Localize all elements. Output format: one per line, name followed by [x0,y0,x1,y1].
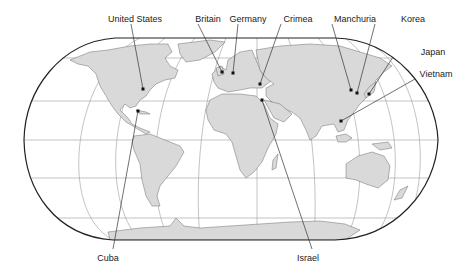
marker-britain [221,71,224,74]
south-america [132,134,184,206]
marker-united-states [142,88,145,91]
madagascar [272,154,278,170]
africa [206,94,278,178]
label-crimea: Crimea [283,14,312,24]
label-vietnam: Vietnam [420,69,453,79]
indonesia [336,134,352,142]
greenland [178,40,225,62]
north-america [70,44,178,134]
marker-japan [368,93,371,96]
marker-germany [232,72,235,75]
label-germany: Germany [229,14,266,24]
australia [346,152,390,188]
label-united-states: United States [108,14,162,24]
marker-crimea [259,83,262,86]
antarctica [108,218,360,240]
marker-israel [261,99,264,102]
label-israel: Israel [297,253,319,263]
map-canvas [0,0,461,276]
label-korea: Korea [401,14,425,24]
world-map: United States Britain Germany Crimea Man… [0,0,461,276]
marker-vietnam [340,120,343,123]
marker-cuba [137,110,140,113]
label-manchuria: Manchuria [334,14,376,24]
new-zealand [394,186,408,200]
marker-korea [356,92,359,95]
new-guinea [372,142,392,150]
label-japan: Japan [421,47,446,57]
label-cuba: Cuba [97,253,119,263]
marker-manchuria [350,89,353,92]
label-britain: Britain [195,14,221,24]
